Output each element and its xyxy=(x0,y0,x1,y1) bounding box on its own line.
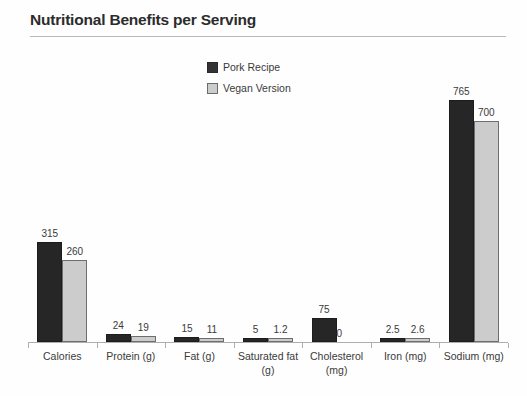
bar-value-label: 260 xyxy=(66,247,83,257)
bar-value-label: 700 xyxy=(478,108,495,118)
bar[interactable] xyxy=(312,318,337,342)
category-label-line: Protein (g) xyxy=(98,349,165,363)
category-label: Cholesterol(mg) xyxy=(302,349,371,377)
bar-group: 2419 xyxy=(97,60,166,342)
category-label-line: Cholesterol xyxy=(303,349,370,363)
bar-column: 315 xyxy=(37,242,62,342)
bar-group: 2.52.6 xyxy=(371,60,440,342)
bar-value-label: 24 xyxy=(113,321,124,331)
bar-column: 24 xyxy=(106,334,131,342)
bar-group: 1511 xyxy=(165,60,234,342)
category-label: Sodium (mg) xyxy=(439,349,508,377)
bar-pair: 315260 xyxy=(37,242,87,342)
title-divider xyxy=(30,36,506,37)
bar-value-label: 75 xyxy=(319,305,330,315)
bar-value-label: 2.6 xyxy=(411,325,425,335)
bar[interactable] xyxy=(449,100,474,342)
category-label: Calories xyxy=(28,349,97,377)
bar[interactable] xyxy=(106,334,131,342)
bar-value-label: 2.5 xyxy=(386,325,400,335)
category-label-line: Iron (mg) xyxy=(372,349,439,363)
bar-value-label: 15 xyxy=(181,324,192,334)
category-label-line: Calories xyxy=(29,349,96,363)
x-axis-line xyxy=(28,342,508,343)
category-label-line: Sodium (mg) xyxy=(440,349,507,363)
bar[interactable] xyxy=(474,121,499,342)
bar-pair: 765700 xyxy=(449,100,499,342)
category-label-line: (mg) xyxy=(303,363,370,377)
bar-pair: 2419 xyxy=(106,334,156,342)
axis-tick xyxy=(97,343,98,348)
category-label-line: Saturated fat xyxy=(235,349,302,363)
category-label-line: (g) xyxy=(235,363,302,377)
bar-value-label: 315 xyxy=(41,229,58,239)
chart-title: Nutritional Benefits per Serving xyxy=(30,11,256,29)
axis-tick xyxy=(371,343,372,348)
bar-column: 260 xyxy=(62,260,87,342)
bar-column: 765 xyxy=(449,100,474,342)
bar-value-label: 5 xyxy=(253,325,259,335)
bar-value-label: 0 xyxy=(337,329,343,339)
bar[interactable] xyxy=(37,242,62,342)
bar-value-label: 19 xyxy=(138,323,149,333)
category-label: Iron (mg) xyxy=(371,349,440,377)
x-axis-category-labels: CaloriesProtein (g)Fat (g)Saturated fat(… xyxy=(28,349,508,377)
bar-value-label: 1.2 xyxy=(274,325,288,335)
axis-tick xyxy=(302,343,303,348)
bar-groups: 3152602419151151.27502.52.6765700 xyxy=(28,60,508,342)
axis-tick xyxy=(165,343,166,348)
bar[interactable] xyxy=(62,260,87,342)
axis-tick xyxy=(28,343,29,348)
category-label: Protein (g) xyxy=(97,349,166,377)
axis-tick xyxy=(508,343,509,348)
category-label-line: Fat (g) xyxy=(166,349,233,363)
axis-tick xyxy=(234,343,235,348)
category-label: Fat (g) xyxy=(165,349,234,377)
bar-group: 51.2 xyxy=(234,60,303,342)
bar-value-label: 11 xyxy=(207,325,217,335)
bar-group: 315260 xyxy=(28,60,97,342)
bar-group: 750 xyxy=(302,60,371,342)
bar-column: 75 xyxy=(312,318,337,342)
bar-pair: 750 xyxy=(312,318,362,342)
bar-value-label: 765 xyxy=(453,87,470,97)
chart-container: Nutritional Benefits per Serving Pork Re… xyxy=(0,0,527,396)
bar-group: 765700 xyxy=(439,60,508,342)
bar-column: 700 xyxy=(474,121,499,342)
category-label: Saturated fat(g) xyxy=(234,349,303,377)
axis-tick xyxy=(439,343,440,348)
